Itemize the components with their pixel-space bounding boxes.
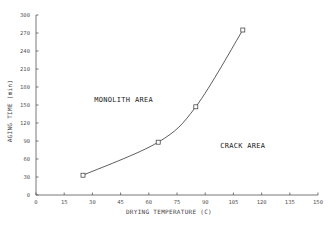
y-tick-label: 270 <box>20 30 30 36</box>
axes <box>36 15 318 195</box>
y-tick-label: 120 <box>20 120 30 126</box>
y-tick-label: 180 <box>20 84 30 90</box>
region-label: MONOLITH AREA <box>94 96 153 104</box>
data-point <box>194 105 198 109</box>
ticks: 0153045607590105120135150030609012015018… <box>20 12 323 205</box>
annotations: MONOLITH AREACRACK AREA <box>94 96 266 150</box>
x-tick-label: 135 <box>285 199 295 205</box>
x-tick-label: 75 <box>174 199 181 205</box>
data-point <box>241 28 245 32</box>
y-tick-label: 60 <box>23 156 30 162</box>
x-tick-label: 30 <box>89 199 96 205</box>
y-tick-label: 210 <box>20 66 30 72</box>
y-tick-label: 90 <box>23 138 30 144</box>
data-point <box>81 173 85 177</box>
y-tick-label: 240 <box>20 48 30 54</box>
y-tick-label: 300 <box>20 12 30 18</box>
y-tick-label: 30 <box>23 174 30 180</box>
x-tick-label: 150 <box>313 199 323 205</box>
x-tick-label: 0 <box>34 199 37 205</box>
x-tick-label: 120 <box>257 199 267 205</box>
y-tick-label: 0 <box>27 192 30 198</box>
x-tick-label: 45 <box>117 199 124 205</box>
chart: 0153045607590105120135150030609012015018… <box>0 0 336 226</box>
x-tick-label: 60 <box>145 199 152 205</box>
x-tick-label: 105 <box>228 199 238 205</box>
region-label: CRACK AREA <box>220 142 266 150</box>
x-axis-title: DRYING TEMPERATURE (C) <box>126 208 212 215</box>
y-tick-label: 150 <box>20 102 30 108</box>
data-point <box>156 140 160 144</box>
y-axis-title: AGING TIME (min) <box>6 80 13 143</box>
x-tick-label: 90 <box>202 199 209 205</box>
x-tick-label: 15 <box>61 199 68 205</box>
